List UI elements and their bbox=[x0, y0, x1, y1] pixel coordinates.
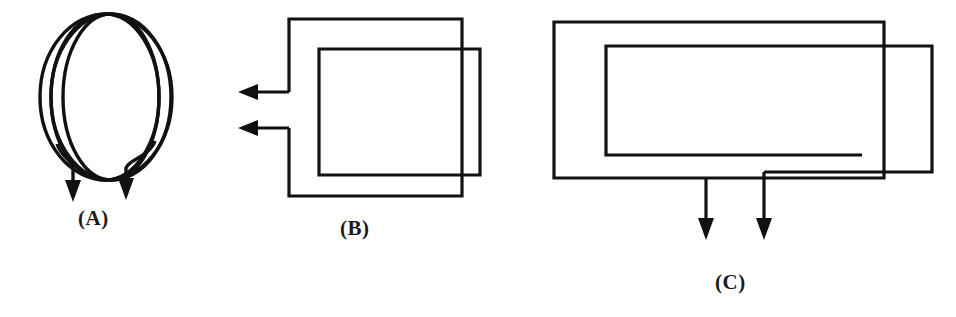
figure-canvas bbox=[0, 0, 956, 317]
panel-label-b: (B) bbox=[340, 216, 370, 241]
square-turn-outer bbox=[289, 19, 462, 196]
figure-container: (A) (B) (C) bbox=[0, 0, 956, 317]
panel-a-coil bbox=[40, 14, 172, 202]
panel-b-coil bbox=[238, 19, 480, 196]
arrow-head-right-down-c bbox=[756, 218, 772, 240]
arrow-head-upper-left bbox=[238, 84, 258, 100]
panel-label-a: (A) bbox=[78, 206, 109, 231]
arrow-head-right-down bbox=[118, 178, 134, 200]
square-turn-inner bbox=[319, 49, 480, 175]
panel-c-coil bbox=[554, 22, 932, 240]
arrow-head-left-down bbox=[65, 180, 81, 202]
arrow-head-lower-left bbox=[238, 120, 258, 136]
panel-label-c: (C) bbox=[715, 270, 746, 295]
coil-turn-4 bbox=[40, 14, 172, 180]
arrow-head-left-down-c bbox=[698, 218, 714, 240]
